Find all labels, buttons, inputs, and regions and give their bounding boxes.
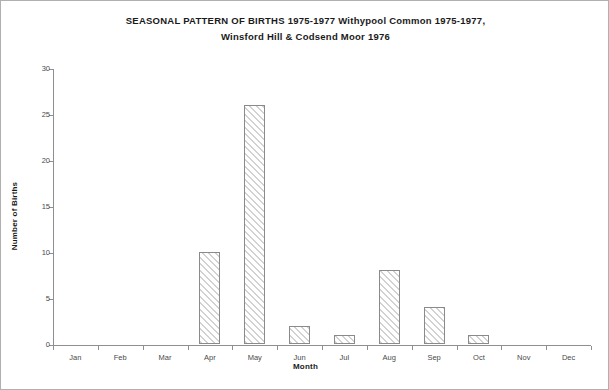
x-tick-mark (501, 346, 502, 350)
x-tick-label-jan: Jan (53, 353, 98, 362)
y-tick-label: 5 (46, 294, 50, 303)
bar-apr (199, 252, 220, 344)
y-tick-label: 25 (42, 110, 50, 119)
plot-area: 051015202530 JanFebMarAprMayJunJulAugSep… (53, 69, 591, 345)
x-tick-mark (322, 346, 323, 350)
bar-sep (424, 307, 445, 344)
bar-jul (334, 335, 355, 344)
x-tick-mark (546, 346, 547, 350)
bar-jun (289, 326, 310, 344)
x-tick-label-jun: Jun (277, 353, 322, 362)
x-tick-mark (457, 346, 458, 350)
x-tick-mark (188, 346, 189, 350)
x-tick-label-apr: Apr (188, 353, 233, 362)
y-tick-label: 30 (42, 64, 50, 73)
x-tick-label-sep: Sep (412, 353, 457, 362)
bar-may (244, 105, 265, 344)
chart-title-line-1: SEASONAL PATTERN OF BIRTHS 1975-1977 Wit… (1, 13, 609, 29)
x-tick-label-aug: Aug (367, 353, 412, 362)
x-tick-mark (412, 346, 413, 350)
y-axis-line (53, 69, 54, 346)
x-tick-mark (232, 346, 233, 350)
bar-aug (379, 270, 400, 344)
x-tick-label-oct: Oct (457, 353, 502, 362)
x-tick-label-jul: Jul (322, 353, 367, 362)
y-axis-title: Number of Births (10, 161, 19, 271)
x-tick-label-dec: Dec (546, 353, 591, 362)
x-tick-mark (143, 346, 144, 350)
x-tick-label-nov: Nov (501, 353, 546, 362)
chart-figure: SEASONAL PATTERN OF BIRTHS 1975-1977 Wit… (0, 0, 609, 390)
x-axis-title: Month (1, 362, 609, 371)
x-tick-label-feb: Feb (98, 353, 143, 362)
x-tick-mark (591, 346, 592, 350)
x-tick-mark (98, 346, 99, 350)
chart-title-line-2: Winsford Hill & Codsend Moor 1976 (1, 29, 609, 45)
x-tick-mark (53, 346, 54, 350)
x-tick-label-may: May (232, 353, 277, 362)
y-tick-label: 15 (42, 202, 50, 211)
y-tick-label: 20 (42, 156, 50, 165)
x-tick-mark (277, 346, 278, 350)
y-tick-label: 0 (46, 340, 50, 349)
chart-title: SEASONAL PATTERN OF BIRTHS 1975-1977 Wit… (1, 13, 609, 45)
y-tick-label: 10 (42, 248, 50, 257)
x-tick-mark (367, 346, 368, 350)
bar-oct (468, 335, 489, 344)
x-tick-label-mar: Mar (143, 353, 188, 362)
